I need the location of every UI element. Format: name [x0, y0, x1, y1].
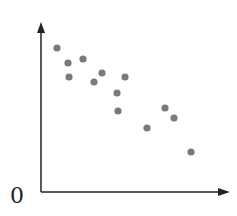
data-point — [65, 73, 72, 80]
origin-label: 0 — [10, 183, 24, 208]
data-point — [161, 104, 168, 111]
x-axis-arrow-icon — [218, 188, 230, 196]
data-point — [187, 148, 194, 155]
data-point — [121, 73, 128, 80]
data-point — [53, 44, 60, 51]
data-point — [113, 89, 120, 96]
data-point — [98, 69, 105, 76]
data-point — [90, 78, 97, 85]
y-axis-arrow-icon — [37, 22, 45, 33]
data-point — [143, 124, 150, 131]
data-point — [79, 55, 86, 62]
y-axis — [37, 22, 45, 192]
data-point — [114, 107, 121, 114]
data-point — [170, 114, 177, 121]
data-point — [64, 59, 71, 66]
data-points — [53, 44, 194, 155]
scatter-plot: 0 — [0, 0, 237, 216]
x-axis — [41, 188, 230, 196]
